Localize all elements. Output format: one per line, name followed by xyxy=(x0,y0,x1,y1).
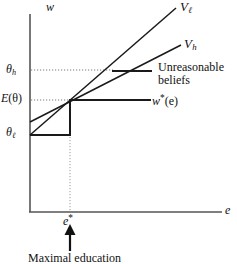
plot-canvas xyxy=(0,0,237,264)
curve-v-low xyxy=(30,8,176,135)
y-tick-label-theta-l: θℓ xyxy=(6,126,16,141)
figure-caption-maximal-education: Maximal education xyxy=(28,252,121,264)
y-tick-label-theta-l-subscript: ℓ xyxy=(12,131,16,140)
y-tick-label-theta-h-subscript: h xyxy=(12,68,16,77)
signaling-diagram-figure: w e Vℓ Vh θh E(θ) θℓ w*(e) Unreasonableb… xyxy=(0,0,237,264)
annotation-unreasonable-beliefs: Unreasonablebeliefs xyxy=(158,61,224,86)
curve-label-wage-schedule: w*(e) xyxy=(152,94,178,108)
curve-label-v-low-subscript: ℓ xyxy=(188,5,192,15)
curve-wage-schedule xyxy=(30,100,151,135)
y-tick-label-expected-theta: E(θ) xyxy=(1,92,22,105)
curve-label-v-low: Vℓ xyxy=(180,0,192,16)
curve-label-wage-schedule-arg: (e) xyxy=(165,94,178,108)
x-tick-label-e-star: e* xyxy=(63,214,73,228)
curve-label-v-high: Vh xyxy=(184,37,197,53)
x-tick-label-e-star-superscript: * xyxy=(68,213,73,223)
curve-label-v-high-subscript: h xyxy=(192,42,197,52)
y-axis-label: w xyxy=(46,1,54,14)
y-tick-label-expected-theta-arg: (θ) xyxy=(8,91,22,105)
y-tick-label-theta-h: θh xyxy=(6,63,16,78)
x-axis-label: e xyxy=(225,204,230,217)
annotation-unreasonable-beliefs-line2: beliefs xyxy=(158,73,190,87)
